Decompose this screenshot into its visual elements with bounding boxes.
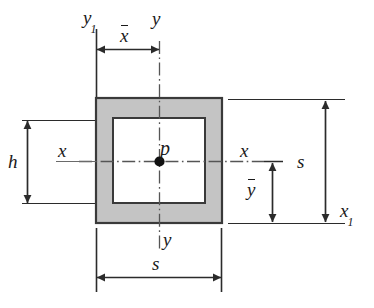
label-y1-subscript: 1 — [90, 22, 96, 36]
overbar-x — [121, 25, 128, 26]
label-y-bar-base: y — [247, 179, 255, 200]
label-y-bar: y — [247, 180, 255, 199]
label-h-base: h — [8, 151, 18, 172]
figure-container: y1 x y h x p x y s x1 y s — [0, 0, 374, 308]
label-y1: y1 — [83, 8, 97, 31]
label-centroid-p: p — [160, 138, 170, 158]
label-x1: x1 — [340, 201, 354, 224]
overbar-y — [248, 179, 255, 180]
label-x-right: x — [240, 141, 248, 160]
diagram-canvas — [0, 0, 374, 308]
label-s-right-base: s — [297, 151, 304, 172]
label-x1-subscript: 1 — [347, 215, 353, 229]
label-x-left-base: x — [58, 140, 66, 161]
label-y-bottom-base: y — [163, 229, 171, 250]
label-s-bottom: s — [152, 254, 159, 273]
label-y-bottom: y — [163, 230, 171, 249]
label-y-top: y — [152, 9, 160, 28]
label-y-top-base: y — [152, 8, 160, 29]
label-x-bar-base: x — [120, 25, 128, 46]
label-x-left: x — [58, 141, 66, 160]
label-s-right: s — [297, 152, 304, 171]
label-centroid-base: p — [160, 137, 170, 159]
dimension-y-bar — [264, 162, 283, 223]
label-h: h — [8, 152, 18, 171]
label-s-bottom-base: s — [152, 253, 159, 274]
label-x-bar: x — [120, 26, 128, 45]
label-x-right-base: x — [240, 140, 248, 161]
